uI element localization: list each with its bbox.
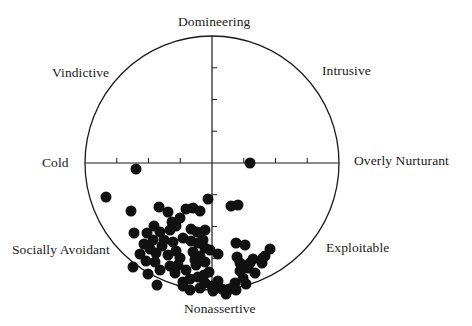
label-vindictive: Vindictive bbox=[52, 65, 109, 81]
data-point bbox=[241, 279, 252, 290]
data-point bbox=[213, 249, 224, 260]
label-overly-nurturant: Overly Nurturant bbox=[354, 153, 449, 169]
data-point bbox=[178, 281, 189, 292]
data-points bbox=[101, 158, 276, 300]
label-intrusive: Intrusive bbox=[322, 63, 371, 79]
data-point bbox=[199, 270, 210, 281]
data-point bbox=[131, 164, 142, 175]
data-point bbox=[208, 286, 219, 297]
data-point bbox=[195, 206, 206, 217]
data-point bbox=[101, 192, 112, 203]
data-point bbox=[148, 235, 159, 246]
label-socially-avoidant: Socially Avoidant bbox=[12, 242, 110, 258]
data-point bbox=[240, 240, 251, 251]
data-point bbox=[195, 283, 206, 294]
data-point bbox=[265, 244, 276, 255]
data-point bbox=[129, 228, 140, 239]
data-point bbox=[258, 253, 269, 264]
data-point bbox=[128, 262, 139, 273]
data-point bbox=[155, 265, 166, 276]
data-point bbox=[126, 206, 137, 217]
data-point bbox=[170, 268, 181, 279]
label-nonassertive: Nonassertive bbox=[184, 301, 256, 317]
data-point bbox=[175, 213, 186, 224]
data-point bbox=[163, 207, 174, 218]
data-point bbox=[231, 285, 242, 296]
label-exploitable: Exploitable bbox=[326, 240, 389, 256]
data-point bbox=[250, 268, 261, 279]
data-point bbox=[163, 250, 174, 261]
data-point bbox=[143, 269, 154, 280]
data-point bbox=[165, 225, 176, 236]
data-point bbox=[152, 280, 163, 291]
label-cold: Cold bbox=[42, 155, 69, 171]
data-point bbox=[190, 255, 201, 266]
data-point bbox=[203, 194, 214, 205]
data-point bbox=[221, 289, 232, 300]
data-point bbox=[245, 158, 256, 169]
data-point bbox=[233, 200, 244, 211]
data-point bbox=[200, 225, 211, 236]
data-point bbox=[200, 257, 211, 268]
label-domineering: Domineering bbox=[178, 14, 250, 30]
